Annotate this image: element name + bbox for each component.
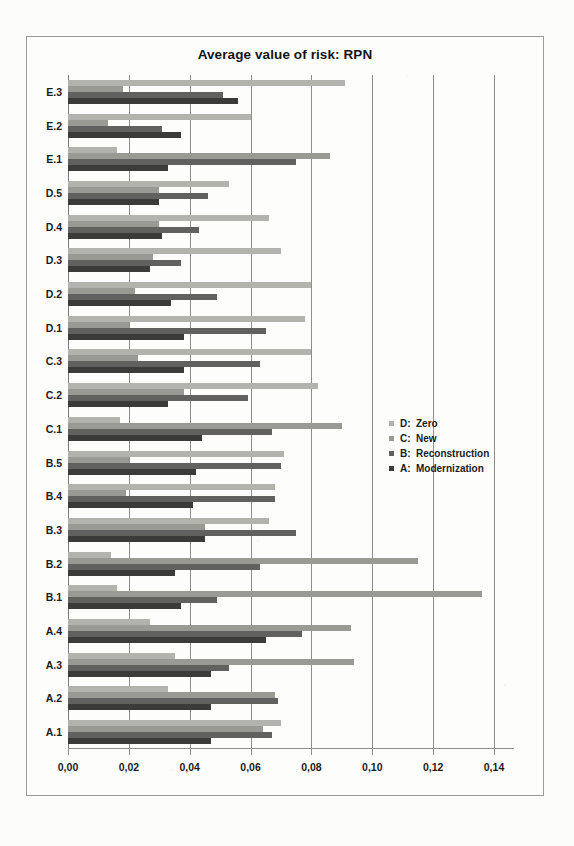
- bar-group-d-1: D.1: [68, 311, 494, 345]
- x-axis-tick: [372, 749, 373, 755]
- chart-figure-frame: Average value of risk: RPN E.3E.2E.1D.5D…: [26, 36, 544, 796]
- x-axis-tick: [433, 749, 434, 755]
- bar-b-2-a[interactable]: [68, 570, 175, 576]
- legend-item-label: New: [416, 433, 437, 444]
- bar-group-d-4: D.4: [68, 210, 494, 244]
- x-axis-tick: [494, 749, 495, 755]
- bar-group-b-4: B.4: [68, 479, 494, 513]
- bar-group-a-4: A.4: [68, 614, 494, 648]
- y-axis-category-label: C.2: [46, 389, 62, 401]
- bar-c-2-a[interactable]: [68, 401, 168, 407]
- bar-b-1-a[interactable]: [68, 603, 181, 609]
- bar-group-e-3: E.3: [68, 75, 494, 109]
- square-swatch-icon: [389, 436, 394, 441]
- bar-d-2-a[interactable]: [68, 300, 171, 306]
- x-axis-tick-label: 0,08: [301, 761, 321, 773]
- bar-group-a-1: A.1: [68, 715, 494, 749]
- bar-b-4-a[interactable]: [68, 502, 193, 508]
- legend-item-key: A:: [400, 463, 416, 474]
- x-axis-tick-label: 0,04: [179, 761, 199, 773]
- x-axis-tick-label: 0,14: [484, 761, 504, 773]
- bar-group-d-2: D.2: [68, 277, 494, 311]
- x-axis-tick: [251, 749, 252, 755]
- legend-item-key: C:: [400, 433, 416, 444]
- bar-group-b-3: B.3: [68, 513, 494, 547]
- x-axis-tick: [129, 749, 130, 755]
- y-axis-category-label: B.5: [46, 457, 62, 469]
- y-axis-category-label: A.1: [46, 726, 62, 738]
- square-swatch-icon: [389, 451, 394, 456]
- bar-group-a-3: A.3: [68, 648, 494, 682]
- bar-c-1-a[interactable]: [68, 435, 202, 441]
- bar-e-2-a[interactable]: [68, 132, 181, 138]
- y-axis-category-label: A.4: [46, 625, 62, 637]
- bar-a-4-a[interactable]: [68, 637, 266, 643]
- legend-item-label: Zero: [416, 418, 438, 429]
- bar-group-d-5: D.5: [68, 176, 494, 210]
- x-axis-tick-label: 0,02: [119, 761, 139, 773]
- y-axis-category-label: D.3: [46, 254, 62, 266]
- x-axis-tick-label: 0,06: [240, 761, 260, 773]
- chart-legend: D:ZeroC:NewB:ReconstructionA:Modernizati…: [389, 416, 489, 476]
- y-axis-category-label: C.3: [46, 355, 62, 367]
- x-axis-tick-label: 0,00: [58, 761, 78, 773]
- legend-item-b[interactable]: B:Reconstruction: [389, 446, 489, 461]
- bar-e-3-a[interactable]: [68, 98, 238, 104]
- x-axis-tick-label: 0,10: [362, 761, 382, 773]
- bar-d-3-a[interactable]: [68, 266, 150, 272]
- legend-item-d[interactable]: D:Zero: [389, 416, 489, 431]
- bar-d-5-a[interactable]: [68, 199, 159, 205]
- y-axis-category-label: A.2: [46, 692, 62, 704]
- bar-group-c-2: C.2: [68, 378, 494, 412]
- legend-item-key: B:: [400, 448, 416, 459]
- square-swatch-icon: [389, 421, 394, 426]
- bar-group-d-3: D.3: [68, 244, 494, 278]
- y-axis-category-label: E.3: [46, 86, 62, 98]
- y-axis-category-label: B.1: [46, 591, 62, 603]
- x-axis-tick: [190, 749, 191, 755]
- chart-title: Average value of risk: RPN: [27, 47, 543, 62]
- gridline-0-14: [494, 75, 495, 749]
- y-axis-category-label: D.2: [46, 288, 62, 300]
- legend-item-c[interactable]: C:New: [389, 431, 489, 446]
- bar-a-1-a[interactable]: [68, 738, 211, 744]
- bar-c-3-a[interactable]: [68, 367, 184, 373]
- bar-a-3-a[interactable]: [68, 671, 211, 677]
- bar-group-b-1: B.1: [68, 581, 494, 615]
- legend-item-a[interactable]: A:Modernization: [389, 461, 489, 476]
- legend-item-label: Modernization: [416, 463, 484, 474]
- x-axis-tick: [311, 749, 312, 755]
- y-axis-category-label: E.2: [46, 120, 62, 132]
- y-axis-category-label: B.2: [46, 558, 62, 570]
- bar-group-c-3: C.3: [68, 345, 494, 379]
- legend-item-key: D:: [400, 418, 416, 429]
- y-axis-category-label: E.1: [46, 153, 62, 165]
- bar-e-1-a[interactable]: [68, 165, 168, 171]
- bar-group-b-2: B.2: [68, 547, 494, 581]
- y-axis-category-label: D.5: [46, 187, 62, 199]
- y-axis-category-label: D.1: [46, 322, 62, 334]
- bar-b-5-a[interactable]: [68, 469, 196, 475]
- screenshot-root: Average value of risk: RPN E.3E.2E.1D.5D…: [0, 0, 574, 846]
- y-axis-category-label: A.3: [46, 659, 62, 671]
- bar-group-a-2: A.2: [68, 682, 494, 716]
- bar-group-e-1: E.1: [68, 142, 494, 176]
- y-axis-category-label: D.4: [46, 221, 62, 233]
- plot-inner: E.3E.2E.1D.5D.4D.3D.2D.1C.3C.2C.1B.5B.4B…: [68, 75, 494, 749]
- bar-a-2-a[interactable]: [68, 704, 211, 710]
- y-axis-category-label: B.4: [46, 490, 62, 502]
- square-swatch-icon: [389, 466, 394, 471]
- x-axis-line: [68, 748, 514, 749]
- bar-b-3-a[interactable]: [68, 536, 205, 542]
- legend-item-label: Reconstruction: [416, 448, 489, 459]
- bar-group-e-2: E.2: [68, 109, 494, 143]
- x-axis-tick-label: 0,12: [423, 761, 443, 773]
- x-axis-tick: [68, 749, 69, 755]
- y-axis-category-label: C.1: [46, 423, 62, 435]
- bar-d-4-a[interactable]: [68, 233, 162, 239]
- bar-d-1-a[interactable]: [68, 334, 184, 340]
- y-axis-category-label: B.3: [46, 524, 62, 536]
